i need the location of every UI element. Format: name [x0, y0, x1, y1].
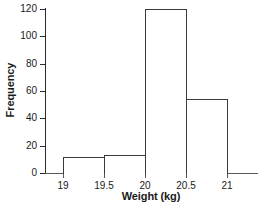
y-tick-60	[40, 91, 45, 92]
y-tick-label-80: 80	[11, 59, 37, 69]
y-tick-40	[40, 118, 45, 119]
histogram-bar-3	[145, 9, 187, 174]
histogram-chart: Frequency 120 100 80 60 40 20 0 19 19.5 …	[0, 0, 266, 210]
y-tick-label-0: 0	[11, 168, 37, 178]
y-tick-100	[40, 36, 45, 37]
histogram-bar-2	[104, 155, 146, 174]
x-axis-title: Weight (kg)	[44, 190, 258, 202]
y-tick-label-60: 60	[11, 86, 37, 96]
histogram-bar-4	[186, 99, 228, 174]
y-tick-label-100: 100	[11, 31, 37, 41]
y-tick-120	[40, 9, 45, 10]
y-tick-label-120: 120	[11, 4, 37, 14]
y-tick-80	[40, 64, 45, 65]
histogram-bar-1	[63, 157, 105, 174]
y-tick-0	[40, 173, 45, 174]
y-tick-label-40: 40	[11, 113, 37, 123]
y-tick-label-20: 20	[11, 141, 37, 151]
y-axis-line	[45, 8, 46, 174]
y-tick-20	[40, 146, 45, 147]
